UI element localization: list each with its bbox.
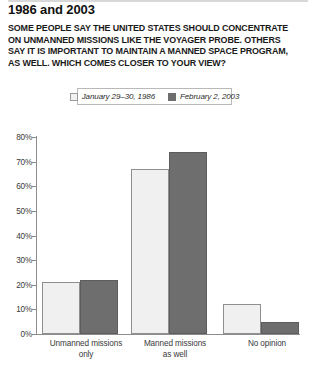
- category-label-no-opinion: No opinion: [212, 338, 316, 349]
- y-tick-label-80: 80%: [4, 133, 32, 142]
- y-tick-label-20: 20%: [4, 280, 32, 289]
- x-axis-category-labels: Unmanned missions only Manned missions a…: [37, 338, 300, 364]
- bar-2003-manned: [169, 152, 207, 334]
- y-tick-0: [32, 334, 37, 335]
- y-tick-label-10: 10%: [4, 305, 32, 314]
- y-tick-label-70: 70%: [4, 157, 32, 166]
- x-axis-line: [36, 334, 300, 335]
- y-tick-label-0: 0%: [4, 330, 32, 339]
- bar-2003-no-opinion: [261, 322, 299, 334]
- bar-1986-no-opinion: [223, 304, 261, 334]
- bar-group-no-opinion: [223, 137, 299, 334]
- y-tick-label-40: 40%: [4, 231, 32, 240]
- bar-groups: [37, 137, 300, 334]
- bar-2003-unmanned: [80, 280, 118, 334]
- chart-plot-area: 80%70%60%50%40%30%20%10%0% Unmanned miss…: [0, 0, 316, 367]
- bar-1986-unmanned: [42, 282, 80, 334]
- y-tick-label-60: 60%: [4, 182, 32, 191]
- bar-1986-manned: [131, 169, 169, 334]
- bar-group-unmanned-missions-only: [42, 137, 118, 334]
- y-tick-label-30: 30%: [4, 256, 32, 265]
- y-tick-label-50: 50%: [4, 206, 32, 215]
- bar-group-manned-missions-as-well: [131, 137, 207, 334]
